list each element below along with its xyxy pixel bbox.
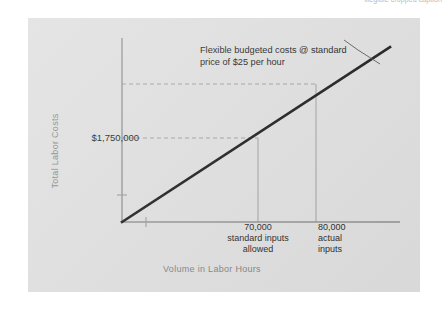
x-label-standard-inputs-allowed: 70,000 standard inputs allowed <box>206 222 310 255</box>
cropped-page-caption: illegible cropped caption <box>0 0 448 10</box>
x-axis-title: Volume in Labor Hours <box>122 264 302 274</box>
flexible-budget-annotation: Flexible budgeted costs @ standard price… <box>200 45 347 68</box>
y-value-label-1750000: $1,750,000 <box>71 132 139 143</box>
x-label-actual-inputs: 80,000 actual inputs <box>318 222 388 255</box>
annotation-leader-line <box>344 40 380 64</box>
cropped-page-caption-text: illegible cropped caption <box>364 0 442 3</box>
chart-panel: Flexible budgeted costs @ standard price… <box>28 18 420 292</box>
flexible-budget-cost-line <box>122 47 390 222</box>
y-axis-title: Total Labor Costs <box>50 96 60 206</box>
